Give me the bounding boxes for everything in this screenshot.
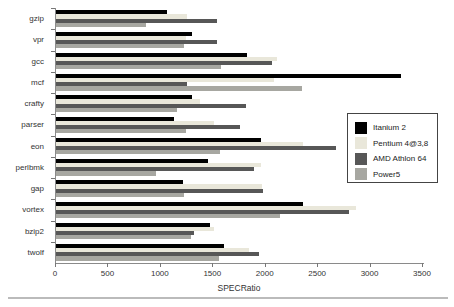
category-label-parser: parser (0, 121, 44, 129)
y-axis-tick (51, 221, 55, 222)
category-label-eon: eon (0, 143, 44, 151)
legend-item: Pentium 4@3,8 (355, 136, 437, 152)
category-label-twolf: twolf (0, 249, 44, 257)
legend-swatch (355, 168, 367, 180)
y-axis-tick (51, 114, 55, 115)
legend-label: AMD Athlon 64 (373, 154, 426, 163)
bar-perlbmk-power5 (56, 171, 156, 175)
x-tick-mark (212, 263, 213, 267)
bottom-separator-rule (8, 297, 448, 299)
x-tick-label-3000: 3000 (350, 269, 390, 278)
x-tick-label-2500: 2500 (297, 269, 337, 278)
category-label-vortex: vortex (0, 206, 44, 214)
category-label-crafty: crafty (0, 100, 44, 108)
y-axis-tick (51, 242, 55, 243)
category-label-bzip2: bzip2 (0, 228, 44, 236)
legend-label: Itanium 2 (373, 123, 406, 132)
x-tick-label-0: 0 (35, 269, 75, 278)
bar-group-vpr (56, 29, 423, 50)
bar-parser-power5 (56, 129, 186, 133)
x-tick-label-1000: 1000 (140, 269, 180, 278)
y-axis-tick (51, 93, 55, 94)
x-tick-mark (422, 263, 423, 267)
x-tick-mark (55, 263, 56, 267)
legend-swatch (355, 122, 367, 134)
y-axis-tick (51, 178, 55, 179)
bar-mcf-power5 (56, 86, 302, 90)
legend-swatch (355, 153, 367, 165)
bar-group-vortex (56, 199, 423, 220)
bar-vortex-power5 (56, 214, 280, 218)
category-label-mcf: mcf (0, 79, 44, 87)
bar-group-mcf (56, 72, 423, 93)
y-axis-category-labels: gzipvprgccmcfcraftyparsereonperlbmkgapvo… (0, 8, 50, 263)
x-tick-mark (107, 263, 108, 267)
category-label-perlbmk: perlbmk (0, 164, 44, 172)
category-label-vpr: vpr (0, 36, 44, 44)
x-tick-label-500: 500 (87, 269, 127, 278)
legend-box: Itanium 2Pentium 4@3,8AMD Athlon 64Power… (347, 113, 438, 183)
spec-ratio-chart: gzipvprgccmcfcraftyparsereonperlbmkgapvo… (0, 0, 454, 307)
bar-twolf-power5 (56, 256, 219, 260)
bar-gzip-power5 (56, 23, 146, 27)
x-tick-label-2000: 2000 (245, 269, 285, 278)
x-tick-mark (317, 263, 318, 267)
y-axis-tick (51, 72, 55, 73)
legend-item: AMD Athlon 64 (355, 151, 437, 167)
x-tick-label-1500: 1500 (192, 269, 232, 278)
y-axis-tick (51, 51, 55, 52)
y-axis-tick (51, 199, 55, 200)
category-label-gzip: gzip (0, 15, 44, 23)
x-tick-mark (265, 263, 266, 267)
legend-label: Pentium 4@3,8 (373, 139, 428, 148)
bar-crafty-power5 (56, 108, 177, 112)
category-label-gcc: gcc (0, 58, 44, 66)
bar-group-gcc (56, 51, 423, 72)
legend-item: Itanium 2 (355, 120, 437, 136)
legend-item: Power5 (355, 167, 437, 183)
legend-label: Power5 (373, 170, 400, 179)
bar-eon-power5 (56, 150, 220, 154)
bar-gcc-power5 (56, 65, 221, 69)
bar-group-twolf (56, 242, 423, 263)
y-axis-tick (51, 136, 55, 137)
category-label-gap: gap (0, 185, 44, 193)
bar-gap-power5 (56, 193, 184, 197)
x-tick-mark (160, 263, 161, 267)
bar-group-crafty (56, 93, 423, 114)
x-tick-mark (370, 263, 371, 267)
legend-swatch (355, 137, 367, 149)
x-axis-title: SPECRatio (55, 283, 423, 293)
bar-group-gzip (56, 8, 423, 29)
x-tick-label-3500: 3500 (402, 269, 442, 278)
y-axis-tick (51, 8, 55, 9)
y-axis-tick (51, 157, 55, 158)
bar-group-bzip2 (56, 221, 423, 242)
bar-bzip2-power5 (56, 235, 191, 239)
bar-vpr-power5 (56, 44, 184, 48)
y-axis-tick (51, 29, 55, 30)
